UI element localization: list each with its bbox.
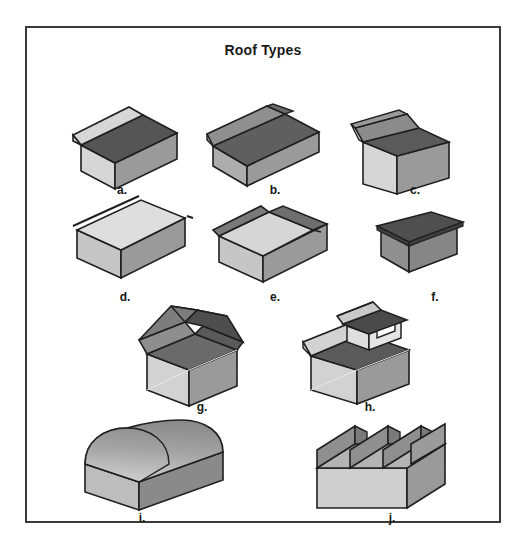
figure-gambrel-roof xyxy=(349,86,469,191)
figure-monitor-roof xyxy=(295,290,430,405)
figure-label-g: g. xyxy=(182,400,222,414)
figure-mansard-roof xyxy=(131,296,256,406)
figure-flat-roof xyxy=(69,196,199,281)
figure-label-b: b. xyxy=(255,183,295,197)
illustration-plate: Roof Types a. b. xyxy=(25,26,501,523)
figure-label-c: c. xyxy=(395,183,435,197)
figure-label-i: i. xyxy=(122,511,162,525)
figure-label-h: h. xyxy=(350,400,390,414)
figure-label-e: e. xyxy=(255,290,295,304)
page-title: Roof Types xyxy=(27,42,499,58)
figure-butterfly-roof xyxy=(209,196,344,286)
figure-barrel-vault-roof xyxy=(77,416,237,516)
figure-hip-roof xyxy=(207,94,337,189)
figure-gable-roof xyxy=(73,83,193,188)
figure-shed-roof xyxy=(365,204,475,284)
figure-label-a: a. xyxy=(102,183,142,197)
figure-sawtooth-roof xyxy=(305,416,455,521)
figure-label-j: j. xyxy=(372,511,412,525)
